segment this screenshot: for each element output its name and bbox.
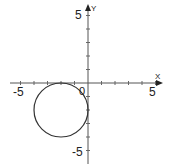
y-tick-label-neg5: -5: [72, 145, 83, 159]
y-tick-label-5: 5: [75, 8, 82, 22]
origin-label: 0: [79, 85, 85, 97]
y-axis-label: Y: [91, 4, 97, 13]
plot-svg: -5 5 5 -5 0 X Y: [0, 0, 172, 165]
coordinate-plane: -5 5 5 -5 0 X Y: [0, 0, 172, 165]
x-tick-label-5: 5: [149, 85, 156, 99]
x-tick-label-neg5: -5: [13, 85, 24, 99]
x-axis-label: X: [155, 72, 161, 81]
